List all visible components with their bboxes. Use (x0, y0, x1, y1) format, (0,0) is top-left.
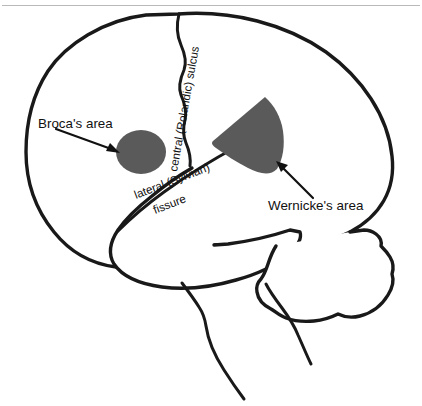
brain-diagram-canvas: Broca's area Wernicke's area central (Ro… (0, 0, 422, 406)
broca-area-label: Broca's area (38, 116, 113, 131)
brain-diagram-figure: Broca's area Wernicke's area central (Ro… (0, 0, 422, 406)
broca-area-region[interactable] (116, 130, 166, 174)
wernicke-area-label: Wernicke's area (268, 198, 364, 213)
brainstem-outline (182, 283, 244, 399)
